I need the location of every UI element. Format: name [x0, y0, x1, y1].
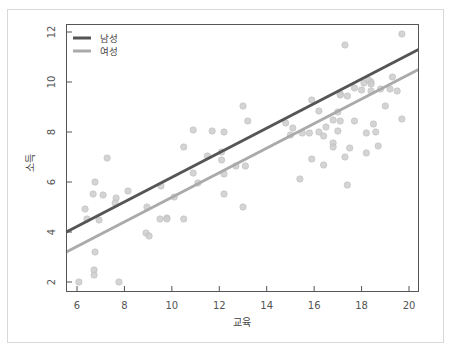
data-point — [240, 103, 246, 109]
data-point — [347, 145, 353, 151]
data-point — [181, 144, 187, 150]
y-tick-label: 8 — [46, 129, 57, 135]
data-point — [146, 233, 152, 239]
data-point — [394, 88, 400, 94]
data-point — [92, 179, 98, 185]
data-point — [368, 81, 374, 87]
data-point — [76, 279, 82, 285]
data-point — [316, 129, 322, 135]
data-point — [245, 118, 251, 124]
data-point — [297, 176, 303, 182]
y-tick-label: 10 — [46, 76, 57, 89]
data-point — [330, 144, 336, 150]
data-point — [164, 216, 170, 222]
data-point — [190, 127, 196, 133]
data-point — [240, 204, 246, 210]
data-point — [370, 121, 376, 127]
data-point — [373, 129, 379, 135]
data-point — [82, 206, 88, 212]
data-point — [190, 170, 196, 176]
data-point — [218, 157, 224, 163]
data-point — [290, 125, 296, 131]
data-point — [342, 154, 348, 160]
y-axis-title: 소득 — [25, 154, 36, 172]
data-point — [90, 191, 96, 197]
x-tick-label: 14 — [260, 300, 273, 311]
x-tick-label: 10 — [165, 300, 178, 311]
x-tick-label: 20 — [403, 300, 416, 311]
data-point — [116, 279, 122, 285]
x-tick-label: 12 — [213, 300, 226, 311]
data-point — [363, 150, 369, 156]
data-point — [209, 128, 215, 134]
data-point — [91, 272, 97, 278]
data-point — [330, 117, 336, 123]
data-point — [221, 191, 227, 197]
data-point — [389, 74, 395, 80]
data-point — [125, 188, 131, 194]
chart-canvas: 68101214161820 24681012 교육 소득 남성 여성 — [0, 0, 454, 353]
data-point — [181, 216, 187, 222]
data-point — [242, 163, 248, 169]
data-point — [309, 156, 315, 162]
data-point — [323, 124, 329, 130]
x-tick-label: 8 — [121, 300, 127, 311]
data-point — [358, 87, 364, 93]
data-point — [363, 130, 369, 136]
y-tick-label: 12 — [46, 26, 57, 39]
legend-label-male: 남성 — [100, 33, 118, 44]
data-point — [342, 42, 348, 48]
x-axis-title: 교육 — [233, 317, 251, 328]
data-point — [335, 128, 341, 134]
data-point — [344, 93, 350, 99]
y-tick-label: 6 — [46, 179, 57, 185]
x-tick-label: 18 — [355, 300, 368, 311]
data-point — [92, 249, 98, 255]
data-point — [100, 192, 106, 198]
data-point — [382, 103, 388, 109]
data-point — [399, 31, 405, 37]
y-tick-label: 2 — [46, 279, 57, 285]
x-tick-label: 16 — [308, 300, 321, 311]
data-point — [104, 155, 110, 161]
x-tick-label: 6 — [74, 300, 80, 311]
data-point — [337, 118, 343, 124]
y-tick-label: 4 — [46, 229, 57, 235]
data-point — [306, 130, 312, 136]
data-point — [375, 143, 381, 149]
data-point — [351, 118, 357, 124]
data-point — [316, 108, 322, 114]
data-point — [399, 116, 405, 122]
data-point — [320, 162, 326, 168]
data-point — [344, 182, 350, 188]
data-point — [351, 85, 357, 91]
legend-label-female: 여성 — [100, 46, 118, 57]
data-point — [221, 129, 227, 135]
data-point — [157, 216, 163, 222]
